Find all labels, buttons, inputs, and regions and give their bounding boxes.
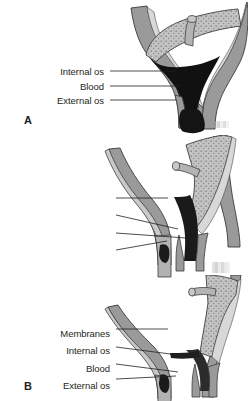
umbilical-cord-c — [189, 288, 216, 297]
uterus-illustration-b — [0, 135, 248, 280]
scan-artifact-1 — [214, 121, 229, 139]
panel-a: Internal os Blood External os A — [0, 0, 248, 135]
uterus-illustration-a — [0, 0, 248, 135]
panel-b: Membranes Internal os Blood External os … — [0, 135, 248, 280]
label-a-external-os: External os — [57, 96, 104, 106]
uterus-illustration-c — [0, 275, 248, 401]
scan-artifact-2 — [212, 262, 230, 280]
label-a-blood: Blood — [80, 82, 104, 92]
label-a-internal-os: Internal os — [60, 67, 104, 77]
panel-letter-a: A — [24, 115, 32, 126]
external-os-blood-a — [179, 109, 205, 134]
panel-c: Membranes Internal os Blood External os … — [0, 275, 248, 401]
